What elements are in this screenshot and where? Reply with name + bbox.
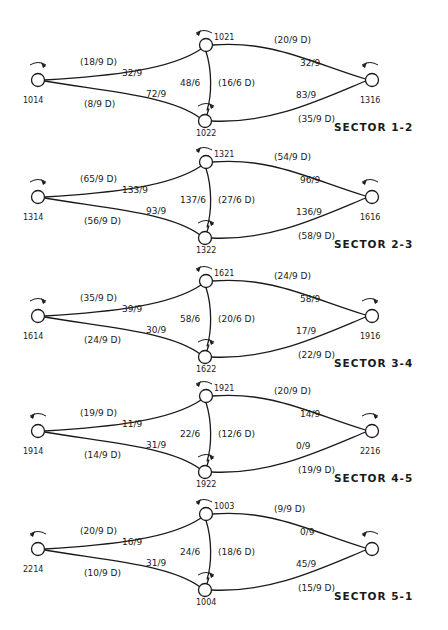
flow-label-bottom-right: 83/9	[296, 90, 316, 100]
flow-label-top-bottom: 24/6	[180, 547, 200, 557]
node-label-top: 1921	[214, 384, 234, 393]
node-top[interactable]	[200, 275, 213, 288]
node-label-left: 1614	[23, 332, 43, 341]
node-label-bottom: 1922	[196, 480, 216, 489]
node-top[interactable]	[200, 156, 213, 169]
node-bottom[interactable]	[199, 466, 212, 479]
edge-top-right	[213, 161, 366, 196]
flow-label-left-bottom: 31/9	[146, 558, 166, 568]
demand-label-top-bottom: (16/6 D)	[218, 78, 255, 88]
node-label-left: 2214	[23, 565, 43, 574]
demand-label-left-top: (18/9 D)	[80, 57, 117, 67]
node-bottom[interactable]	[199, 232, 212, 245]
node-label-bottom: 1622	[196, 365, 216, 374]
node-label-left: 1014	[23, 96, 43, 105]
edge-top-bottom	[206, 52, 211, 111]
node-right[interactable]	[366, 74, 379, 87]
node-top[interactable]	[200, 39, 213, 52]
edge-top-right	[213, 513, 366, 548]
node-top[interactable]	[200, 508, 213, 521]
flow-label-top-right: 14/9	[300, 409, 320, 419]
demand-label-top-bottom: (18/6 D)	[218, 547, 255, 557]
demand-label-bottom-right: (58/9 D)	[298, 231, 335, 241]
demand-label-left-bottom: (24/9 D)	[84, 335, 121, 345]
node-label-bottom: 1322	[196, 246, 216, 255]
node-label-top: 1003	[214, 502, 234, 511]
edge-top-bottom	[206, 288, 211, 347]
sector-label: SECTOR 1-2	[334, 121, 413, 133]
node-label-bottom: 1022	[196, 129, 216, 138]
node-label-top: 1321	[214, 150, 234, 159]
flow-label-top-right: 0/9	[300, 527, 315, 537]
edge-left-bottom	[45, 81, 201, 118]
node-label-left: 1314	[23, 213, 43, 222]
demand-label-top-bottom: (27/6 D)	[218, 195, 255, 205]
sector-3: 161416211622191639/9(35/9 D)30/9(24/9 D)…	[23, 266, 413, 374]
edge-top-right	[213, 44, 366, 79]
flow-label-left-top: 39/9	[122, 304, 142, 314]
node-right[interactable]	[366, 543, 379, 556]
demand-label-bottom-right: (22/9 D)	[298, 350, 335, 360]
demand-label-bottom-right: (35/9 D)	[298, 114, 335, 124]
flow-label-left-top: 32/9	[122, 68, 142, 78]
node-label-top: 1021	[214, 33, 234, 42]
node-left[interactable]	[32, 310, 45, 323]
edge-top-right	[213, 395, 366, 430]
flow-label-bottom-right: 17/9	[296, 326, 316, 336]
demand-label-top-right: (20/9 D)	[274, 35, 311, 45]
flow-label-top-bottom: 137/6	[180, 195, 206, 205]
node-label-top: 1621	[214, 269, 234, 278]
demand-label-top-bottom: (20/6 D)	[218, 314, 255, 324]
flow-label-left-bottom: 72/9	[146, 89, 166, 99]
edge-left-bottom	[45, 432, 201, 469]
flow-label-left-top: 133/9	[122, 185, 148, 195]
node-label-right: 2216	[360, 447, 380, 456]
flow-label-top-bottom: 48/6	[180, 78, 200, 88]
demand-label-left-top: (19/9 D)	[80, 408, 117, 418]
node-label-right: 1316	[360, 96, 380, 105]
sector-1: 101410211022131632/9(18/9 D)72/9(8/9 D)4…	[23, 30, 413, 138]
sector-label: SECTOR 4-5	[334, 472, 413, 484]
flow-label-left-top: 16/9	[122, 537, 142, 547]
demand-label-top-right: (20/9 D)	[274, 386, 311, 396]
node-right[interactable]	[366, 425, 379, 438]
node-label-right: 1616	[360, 213, 380, 222]
flow-label-left-top: 11/9	[122, 419, 142, 429]
demand-label-top-right: (9/9 D)	[274, 504, 305, 514]
edge-left-bottom	[45, 317, 201, 354]
sector-label: SECTOR 5-1	[334, 590, 413, 602]
demand-label-left-top: (65/9 D)	[80, 174, 117, 184]
demand-label-left-bottom: (14/9 D)	[84, 450, 121, 460]
demand-label-bottom-right: (19/9 D)	[298, 465, 335, 475]
demand-label-left-top: (35/9 D)	[80, 293, 117, 303]
node-bottom[interactable]	[199, 115, 212, 128]
sector-network-diagram: 101410211022131632/9(18/9 D)72/9(8/9 D)4…	[0, 0, 448, 630]
node-label-right: 1916	[360, 332, 380, 341]
demand-label-bottom-right: (15/9 D)	[298, 583, 335, 593]
node-left[interactable]	[32, 74, 45, 87]
node-top[interactable]	[200, 390, 213, 403]
node-right[interactable]	[366, 310, 379, 323]
node-bottom[interactable]	[199, 584, 212, 597]
flow-label-top-right: 96/9	[300, 175, 320, 185]
node-bottom[interactable]	[199, 351, 212, 364]
flow-label-bottom-right: 45/9	[296, 559, 316, 569]
sector-4: 191419211922221611/9(19/9 D)31/9(14/9 D)…	[23, 381, 413, 489]
demand-label-left-bottom: (56/9 D)	[84, 216, 121, 226]
node-left[interactable]	[32, 543, 45, 556]
flow-label-bottom-right: 136/9	[296, 207, 322, 217]
node-label-bottom: 1004	[196, 598, 216, 607]
flow-label-top-right: 32/9	[300, 58, 320, 68]
demand-label-left-bottom: (8/9 D)	[84, 99, 115, 109]
edge-left-bottom	[45, 550, 201, 587]
flow-label-top-bottom: 58/6	[180, 314, 200, 324]
edge-top-right	[213, 280, 366, 315]
node-right[interactable]	[366, 191, 379, 204]
sector-label: SECTOR 3-4	[334, 357, 413, 369]
node-label-left: 1914	[23, 447, 43, 456]
flow-label-top-right: 58/9	[300, 294, 320, 304]
node-left[interactable]	[32, 191, 45, 204]
node-left[interactable]	[32, 425, 45, 438]
edge-top-bottom	[206, 521, 211, 580]
flow-label-left-bottom: 30/9	[146, 325, 166, 335]
